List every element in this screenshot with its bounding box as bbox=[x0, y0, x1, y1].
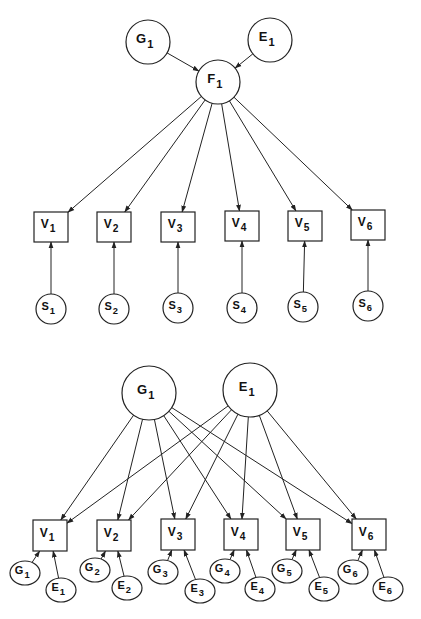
node-e1: E1 bbox=[223, 363, 277, 417]
bottom-nodes: G1E1V1V2V3V4V5V6G1G2G3G4G5G6E1E2E3E4E5E6 bbox=[10, 363, 403, 603]
path-arrow bbox=[309, 550, 320, 578]
path-arrow bbox=[267, 411, 356, 519]
path-arrow bbox=[68, 96, 201, 212]
path-arrow bbox=[168, 550, 172, 561]
path-arrow bbox=[303, 241, 304, 292]
top-nodes: G1E1F1V1V2V3V4V5V6S1S2S3S4S5S6 bbox=[34, 18, 385, 324]
path-arrow bbox=[125, 100, 205, 212]
node-s5: S5 bbox=[288, 292, 318, 322]
node-v6: V6 bbox=[352, 519, 386, 550]
path-arrow bbox=[182, 103, 212, 212]
path-arrow bbox=[186, 414, 238, 519]
path-arrow bbox=[53, 551, 58, 578]
node-s4: S4 bbox=[227, 293, 257, 323]
path-arrow bbox=[118, 551, 124, 576]
node-g6r: G6 bbox=[338, 560, 368, 584]
node-e3r: E3 bbox=[185, 579, 215, 603]
node-v3: V3 bbox=[161, 519, 195, 550]
path-arrow bbox=[184, 550, 196, 580]
node-v2: V2 bbox=[97, 520, 131, 551]
node-g1: G1 bbox=[126, 20, 170, 64]
node-v5: V5 bbox=[286, 519, 320, 550]
path-arrow bbox=[154, 419, 174, 519]
path-arrow bbox=[246, 550, 256, 577]
node-e4r: E4 bbox=[245, 577, 275, 601]
node-f1: F1 bbox=[196, 60, 240, 104]
two-factor-diagram: G1E1V1V2V3V4V5V6G1G2G3G4G5G6E1E2E3E4E5E6 bbox=[10, 363, 403, 603]
path-arrow bbox=[374, 550, 384, 577]
path-arrow bbox=[358, 550, 363, 561]
single-factor-diagram: G1E1F1V1V2V3V4V5V6S1S2S3S4S5S6 bbox=[34, 18, 385, 324]
node-g1r: G1 bbox=[10, 561, 40, 585]
node-s2: S2 bbox=[99, 294, 129, 324]
path-arrow bbox=[101, 551, 105, 559]
bottom-edges bbox=[32, 406, 384, 580]
node-v4: V4 bbox=[224, 519, 258, 550]
node-e6r: E6 bbox=[373, 577, 403, 601]
path-diagram-canvas: G1E1F1V1V2V3V4V5V6S1S2S3S4S5S6 G1E1V1V2V… bbox=[0, 0, 421, 619]
node-e1: E1 bbox=[248, 18, 292, 62]
node-g2r: G2 bbox=[80, 558, 110, 582]
path-arrow bbox=[128, 410, 231, 520]
path-arrow bbox=[292, 550, 296, 560]
node-v6: V6 bbox=[351, 210, 385, 240]
path-arrow bbox=[234, 97, 352, 210]
node-e5r: E5 bbox=[309, 577, 339, 601]
node-v3: V3 bbox=[161, 212, 195, 242]
path-arrow bbox=[172, 408, 352, 524]
path-arrow bbox=[242, 417, 248, 519]
path-arrow bbox=[32, 551, 40, 562]
node-v2: V2 bbox=[97, 212, 131, 242]
path-arrow bbox=[118, 419, 143, 520]
node-e2r: E2 bbox=[112, 576, 142, 600]
node-v1: V1 bbox=[33, 520, 67, 551]
path-arrow bbox=[230, 550, 234, 560]
path-arrow bbox=[164, 416, 231, 519]
node-g4r: G4 bbox=[210, 559, 240, 583]
path-arrow bbox=[229, 101, 296, 211]
node-s6: S6 bbox=[353, 291, 383, 321]
path-arrow bbox=[235, 54, 253, 68]
node-v4: V4 bbox=[225, 211, 259, 241]
node-g1: G1 bbox=[122, 366, 176, 420]
node-g5r: G5 bbox=[272, 559, 302, 583]
node-s3: S3 bbox=[163, 293, 193, 323]
node-s1: S1 bbox=[36, 294, 66, 324]
path-arrow bbox=[167, 53, 199, 71]
node-v5: V5 bbox=[288, 211, 322, 241]
node-g3r: G3 bbox=[148, 560, 178, 584]
path-arrow bbox=[61, 415, 134, 520]
node-e1r: E1 bbox=[46, 578, 76, 602]
path-arrow bbox=[67, 406, 228, 523]
node-v1: V1 bbox=[34, 212, 68, 242]
path-arrow bbox=[222, 104, 240, 211]
path-arrow bbox=[169, 411, 286, 519]
